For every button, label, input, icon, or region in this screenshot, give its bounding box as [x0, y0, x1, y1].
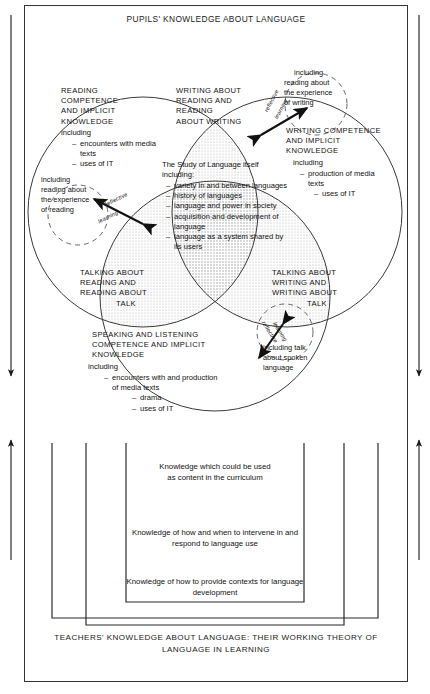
- speaking-heading: SPEAKING AND LISTENING COMPETENCE AND IM…: [92, 330, 234, 361]
- writing-experience-bubble: including reading about the experience o…: [284, 68, 366, 108]
- core-item-list: variety in and between languages history…: [166, 181, 288, 252]
- content-curriculum-box: Knowledge which could be used as content…: [126, 461, 304, 483]
- diagram-root: PUPILS' KNOWLEDGE ABOUT LANGUAGE: [0, 0, 430, 694]
- core-heading: The Study of Language itself including:: [162, 160, 280, 180]
- list-item: uses of IT: [132, 404, 224, 414]
- reading-item-list: encounters with media texts uses of IT: [72, 139, 156, 170]
- list-item: encounters with media texts: [72, 139, 156, 159]
- intervene-respond-box: Knowledge of how and when to intervene i…: [86, 527, 344, 549]
- speaking-including-label: including: [88, 362, 188, 372]
- contexts-development-box: Knowledge of how to provide contexts for…: [52, 576, 378, 598]
- list-item: history of languages: [166, 191, 288, 201]
- footer-caption: TEACHERS' KNOWLEDGE ABOUT LANGUAGE: THEI…: [34, 632, 398, 656]
- list-item: drama: [132, 393, 224, 403]
- list-item: acquisition and development of language: [166, 212, 288, 232]
- talking-about-writing-label: TALKING ABOUT WRITING AND WRITING ABOUT …: [272, 268, 362, 309]
- list-item: uses of IT: [72, 159, 156, 169]
- reading-including-label: including: [61, 128, 156, 138]
- writing-item-list: production of media texts uses of IT: [300, 169, 386, 200]
- writing-heading: WRITING COMPETENCE AND IMPLICIT KNOWLEDG…: [286, 126, 396, 157]
- spoken-language-bubble: including talk about spoken language: [263, 343, 325, 373]
- reading-heading: READING COMPETENCE AND IMPLICIT KNOWLEDG…: [61, 86, 153, 127]
- list-item: variety in and between languages: [166, 181, 288, 191]
- writing-about-reading-label: WRITING ABOUT READING AND READING ABOUT …: [176, 86, 276, 127]
- list-item: language as a system shared by its users: [166, 232, 288, 252]
- speaking-item-list: encounters with and production of media …: [104, 373, 224, 414]
- list-item: uses of IT: [314, 189, 386, 199]
- talking-about-reading-label: TALKING ABOUT READING AND READING ABOUT …: [80, 268, 172, 309]
- reading-experience-bubble: including reading about the experience o…: [41, 175, 117, 215]
- writing-including-label: including: [293, 158, 393, 168]
- list-item: encounters with and production of media …: [104, 373, 224, 393]
- list-item: language and power in society: [166, 201, 288, 211]
- list-item: production of media texts: [300, 169, 386, 189]
